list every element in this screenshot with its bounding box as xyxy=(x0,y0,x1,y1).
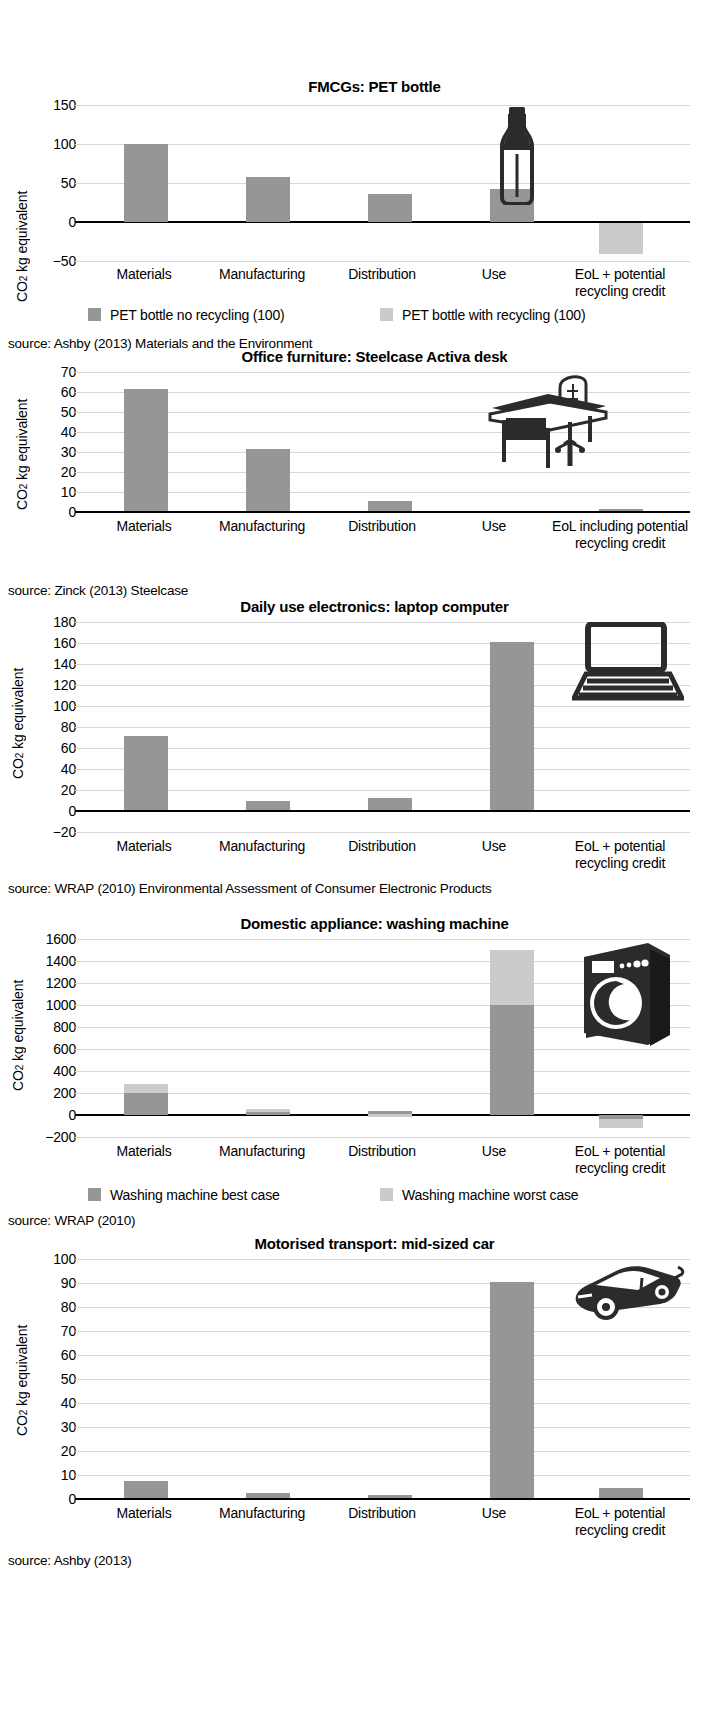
y-tick: 70 xyxy=(30,364,76,380)
legend-label: PET bottle with recycling (100) xyxy=(402,307,585,323)
bar-manufacturing xyxy=(246,1493,290,1498)
bar-distribution xyxy=(368,798,412,810)
x-category-label: Manufacturing xyxy=(196,266,328,283)
y-tick: 1000 xyxy=(14,997,76,1013)
y-tick: 80 xyxy=(26,1299,76,1315)
x-category-label: Materials xyxy=(84,1505,204,1522)
plot-area xyxy=(82,939,690,1137)
bar-distribution-best xyxy=(368,1111,412,1114)
y-tick: 0 xyxy=(30,504,76,520)
y-tick: 10 xyxy=(26,1467,76,1483)
figure-page: FMCGs: PET bottle CO2 kg equivalent 150 … xyxy=(0,0,709,1719)
legend-swatch-light xyxy=(380,1188,393,1201)
y-tick: 400 xyxy=(14,1063,76,1079)
y-tick: 30 xyxy=(30,444,76,460)
plot-area xyxy=(82,372,690,512)
y-tick: 50 xyxy=(26,175,76,191)
gridline xyxy=(75,1379,690,1380)
y-tick: −50 xyxy=(26,253,76,269)
y-tick: 0 xyxy=(26,214,76,230)
y-tick: 600 xyxy=(14,1041,76,1057)
bar-manufacturing xyxy=(246,801,290,810)
y-tick: 180 xyxy=(24,614,76,630)
legend-label: Washing machine worst case xyxy=(402,1187,578,1203)
y-tick: 1200 xyxy=(14,975,76,991)
y-tick: 50 xyxy=(26,1371,76,1387)
x-category-label: EoL + potential recycling credit xyxy=(550,266,690,300)
y-axis-label: CO2 kg equivalent xyxy=(14,374,30,534)
gridline xyxy=(75,1071,690,1072)
desk-chair-icon xyxy=(482,374,612,472)
legend-item-with-recycling: PET bottle with recycling (100) xyxy=(380,307,585,323)
bar-materials xyxy=(124,389,168,511)
x-category-label: Use xyxy=(444,838,544,855)
source-note: source: Zinck (2013) Steelcase xyxy=(8,583,188,598)
y-tick: 20 xyxy=(24,782,76,798)
y-tick: 60 xyxy=(26,1347,76,1363)
bar-use xyxy=(490,642,534,810)
bar-distribution xyxy=(368,501,412,511)
gridline xyxy=(75,706,690,707)
gridline xyxy=(75,832,690,833)
y-tick: 10 xyxy=(30,484,76,500)
legend-swatch-dark xyxy=(88,1188,101,1201)
x-category-label: EoL including potential recycling credit xyxy=(550,518,690,552)
x-category-label: EoL + potential recycling credit xyxy=(550,1505,690,1539)
plot-area xyxy=(82,105,690,261)
x-category-label: Distribution xyxy=(322,838,442,855)
y-tick: 80 xyxy=(24,719,76,735)
x-category-label: Use xyxy=(444,266,544,283)
y-tick: 0 xyxy=(24,803,76,819)
chart-laptop-computer: Daily use electronics: laptop computer C… xyxy=(0,598,709,878)
chart-mid-sized-car: Motorised transport: mid-sized car CO2 k… xyxy=(0,1235,709,1535)
y-tick: 200 xyxy=(14,1085,76,1101)
legend-item-best-case: Washing machine best case xyxy=(88,1187,280,1203)
chart-title: Domestic appliance: washing machine xyxy=(60,915,689,932)
zero-axis-line xyxy=(75,810,690,812)
bar-use xyxy=(490,1282,534,1498)
bar-materials xyxy=(124,1481,168,1498)
bar-eol-best xyxy=(599,1115,643,1119)
laptop-icon xyxy=(572,622,684,702)
chart-title: Office furniture: Steelcase Activa desk xyxy=(60,348,689,365)
bar-manufacturing xyxy=(246,449,290,511)
y-tick: 60 xyxy=(24,740,76,756)
x-category-label: EoL + potential recycling credit xyxy=(550,1143,690,1177)
y-tick: 40 xyxy=(26,1395,76,1411)
y-tick: 1600 xyxy=(14,931,76,947)
x-category-label: Materials xyxy=(84,1143,204,1160)
chart-pet-bottle: FMCGs: PET bottle CO2 kg equivalent 150 … xyxy=(0,70,709,335)
y-tick: 20 xyxy=(30,464,76,480)
y-tick: 50 xyxy=(30,404,76,420)
x-category-label: Manufacturing xyxy=(196,518,328,535)
chart-washing-machine: Domestic appliance: washing machine CO2 … xyxy=(0,915,709,1195)
x-category-label: Manufacturing xyxy=(196,1505,328,1522)
gridline xyxy=(75,1451,690,1452)
y-tick: 100 xyxy=(24,698,76,714)
gridline xyxy=(75,105,690,106)
source-note: source: WRAP (2010) xyxy=(8,1213,135,1228)
gridline xyxy=(75,1427,690,1428)
y-tick: 60 xyxy=(30,384,76,400)
chart-title: Motorised transport: mid-sized car xyxy=(60,1235,689,1252)
bar-manufacturing-best xyxy=(246,1112,290,1115)
y-tick: 20 xyxy=(26,1443,76,1459)
y-tick: 30 xyxy=(26,1419,76,1435)
y-tick: 40 xyxy=(30,424,76,440)
legend-swatch-dark xyxy=(88,308,101,321)
y-tick: 100 xyxy=(26,1251,76,1267)
plot-area xyxy=(82,622,690,832)
bar-manufacturing xyxy=(246,177,290,222)
y-tick: 100 xyxy=(26,136,76,152)
x-category-label: Use xyxy=(444,1143,544,1160)
x-category-label: Use xyxy=(444,1505,544,1522)
x-category-label: Use xyxy=(444,518,544,535)
bar-eol xyxy=(599,509,643,511)
legend-item-worst-case: Washing machine worst case xyxy=(380,1187,578,1203)
source-note: source: Ashby (2013) xyxy=(8,1553,132,1568)
y-tick: 160 xyxy=(24,635,76,651)
legend-item-no-recycling: PET bottle no recycling (100) xyxy=(88,307,284,323)
bottle-icon xyxy=(494,107,540,205)
gridline xyxy=(75,1049,690,1050)
x-category-label: Distribution xyxy=(322,1143,442,1160)
